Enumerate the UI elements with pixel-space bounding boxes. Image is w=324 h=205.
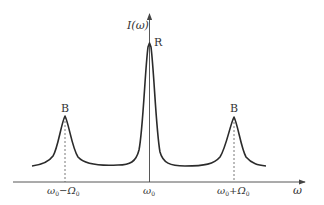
spectrum-plot (0, 0, 324, 205)
peak-label-r: R (154, 37, 162, 48)
tick-label-left: ω0−Ω0 (47, 186, 80, 197)
spectrum-figure: I(ω) R B B ω0−Ω0 ω0 ω0+Ω0 ω (0, 0, 324, 205)
tick-label-right: ω0+Ω0 (217, 186, 250, 197)
peak-label-b-right: B (230, 103, 238, 114)
y-axis-label: I(ω) (127, 20, 149, 31)
tick-label-center: ω0 (143, 186, 155, 197)
x-axis-label: ω (293, 185, 302, 196)
peak-label-b-left: B (61, 103, 69, 114)
